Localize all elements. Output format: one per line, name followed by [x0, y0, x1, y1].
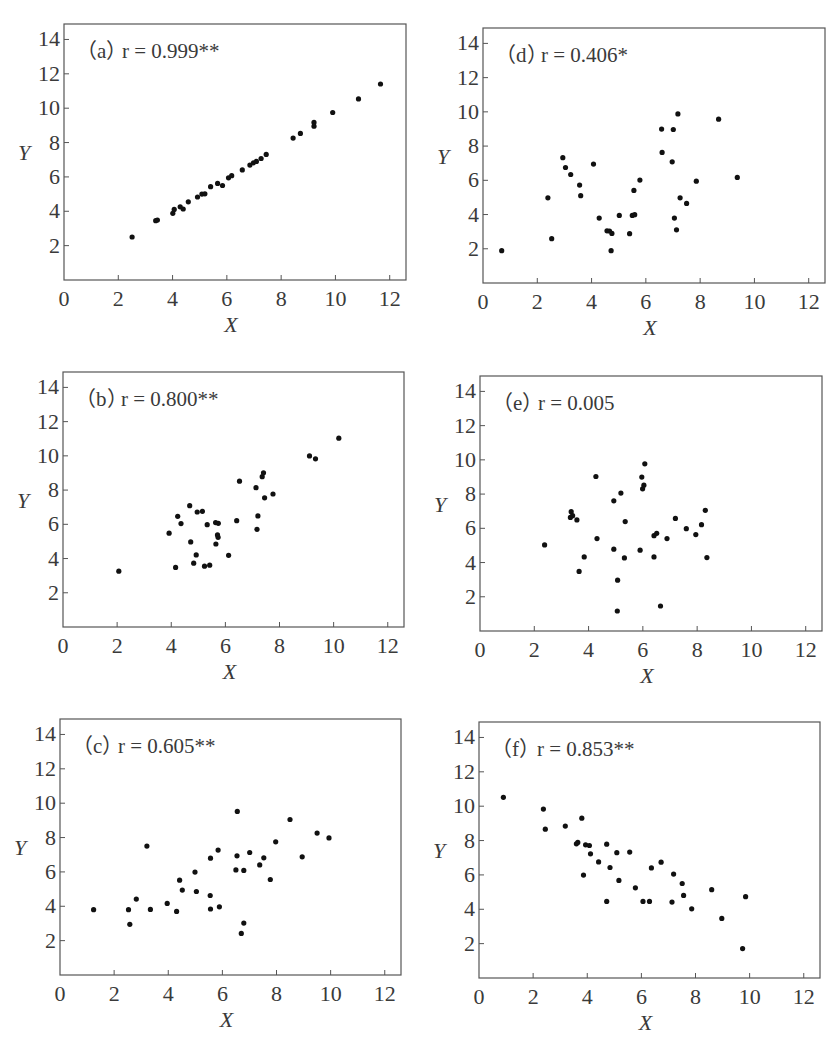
data-point: [591, 162, 596, 167]
x-tick-label: 8: [690, 984, 701, 1009]
x-tick-label: 2: [529, 637, 540, 662]
data-point: [673, 516, 678, 521]
data-point: [241, 921, 246, 926]
data-point: [699, 522, 704, 527]
y-axis-title: Y: [434, 492, 449, 517]
data-point: [611, 498, 616, 503]
data-point: [669, 900, 674, 905]
x-tick-label: 0: [59, 286, 70, 311]
x-tick-label: 2: [112, 633, 123, 658]
panel-label-d: （d）: [495, 43, 548, 67]
data-point: [336, 436, 341, 441]
x-axis-title: X: [642, 315, 658, 340]
data-point: [678, 195, 683, 200]
data-point: [593, 474, 598, 479]
data-point: [307, 453, 312, 458]
data-point: [597, 216, 602, 221]
data-point: [651, 554, 656, 559]
data-point: [200, 509, 205, 514]
y-tick-label: 4: [468, 202, 479, 227]
data-point: [703, 508, 708, 513]
y-tick-label: 12: [454, 413, 476, 438]
data-point: [261, 855, 266, 860]
x-tick-label: 6: [636, 984, 647, 1009]
correlation-label: r = 0.406*: [541, 43, 628, 67]
data-point: [268, 877, 273, 882]
scatter-panel-a: 0246810122468101214XY（a）r = 0.999**: [18, 24, 406, 337]
y-tick-label: 10: [38, 95, 60, 120]
data-point: [165, 901, 170, 906]
x-tick-label: 10: [324, 286, 346, 311]
y-tick-label: 14: [453, 724, 475, 749]
data-point: [167, 531, 172, 536]
data-point: [235, 809, 240, 814]
data-point: [587, 843, 592, 848]
data-point: [216, 521, 221, 526]
scatter-panel-d: 0246810122468101214XY（d）r = 0.406*: [437, 28, 825, 340]
y-tick-label: 2: [468, 236, 479, 261]
data-point: [259, 156, 264, 161]
data-point: [542, 542, 547, 547]
x-tick-label: 2: [109, 981, 120, 1006]
data-point: [568, 172, 573, 177]
data-point: [623, 519, 628, 524]
x-axis-title: X: [638, 1010, 654, 1035]
data-point: [654, 531, 659, 536]
data-point: [257, 862, 262, 867]
x-tick-label: 8: [692, 637, 703, 662]
data-point: [570, 513, 575, 518]
data-point: [234, 518, 239, 523]
scatter-panel-f: 0246810122468101214XY（f）r = 0.853**: [433, 722, 820, 1035]
data-point: [202, 191, 207, 196]
data-point: [604, 899, 609, 904]
y-tick-label: 8: [464, 828, 475, 853]
data-point: [216, 535, 221, 540]
data-point: [233, 867, 238, 872]
data-point: [639, 475, 644, 480]
data-point: [298, 131, 303, 136]
data-point: [671, 872, 676, 877]
x-axis-title: X: [639, 663, 655, 688]
panel-label-a: （a）: [76, 39, 127, 63]
correlation-label: r = 0.999**: [122, 39, 220, 63]
data-point: [641, 483, 646, 488]
data-point: [627, 231, 632, 236]
data-point: [217, 904, 222, 909]
data-point: [659, 860, 664, 865]
data-point: [638, 548, 643, 553]
data-point: [253, 485, 258, 490]
y-axis-title: Y: [14, 835, 29, 860]
y-tick-label: 10: [34, 790, 56, 815]
data-point: [672, 216, 677, 221]
data-point: [326, 835, 331, 840]
data-point: [709, 887, 714, 892]
data-point: [563, 824, 568, 829]
data-point: [192, 870, 197, 875]
data-point: [689, 906, 694, 911]
y-tick-label: 4: [465, 550, 476, 575]
y-axis-title: Y: [433, 838, 448, 863]
y-tick-label: 8: [45, 825, 56, 850]
data-point: [186, 199, 191, 204]
y-tick-label: 8: [49, 130, 60, 155]
data-point: [261, 470, 266, 475]
data-point: [658, 603, 663, 608]
y-tick-label: 12: [38, 61, 60, 86]
data-point: [195, 194, 200, 199]
y-tick-label: 12: [453, 759, 475, 784]
y-tick-label: 6: [464, 862, 475, 887]
y-tick-label: 4: [464, 896, 475, 921]
x-tick-label: 0: [55, 981, 66, 1006]
data-point: [174, 909, 179, 914]
data-point: [632, 212, 637, 217]
x-tick-label: 6: [217, 981, 228, 1006]
data-point: [609, 248, 614, 253]
y-tick-label: 2: [48, 580, 59, 605]
data-point: [144, 844, 149, 849]
x-tick-label: 10: [743, 289, 765, 314]
y-tick-label: 14: [37, 374, 59, 399]
data-point: [680, 881, 685, 886]
data-point: [674, 227, 679, 232]
data-point: [637, 178, 642, 183]
data-point: [181, 206, 186, 211]
